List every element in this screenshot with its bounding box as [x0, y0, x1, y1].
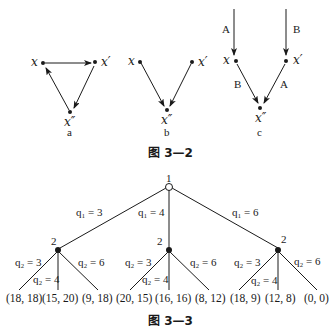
branch-label-q1-4: q₁ = 4 — [138, 206, 165, 218]
label-left-q2-6: q₂ = 6 — [78, 256, 105, 268]
edge-label-A-lower: A — [280, 78, 288, 90]
edge-label-B-top: B — [293, 23, 300, 35]
edge-x-to-xdoubleprime — [141, 63, 164, 106]
payoff-18-9: (18, 9) — [230, 292, 261, 305]
label-x: x — [128, 54, 135, 68]
label-left-q2-3: q₂ = 3 — [15, 256, 42, 268]
label-xprime: x′ — [198, 55, 208, 69]
payoff-0-0: (0, 0) — [304, 292, 329, 305]
figure-3-3-caption: 图 3—3 — [148, 314, 193, 328]
panel-label-c: c — [257, 126, 262, 138]
label-xprime: x′ — [293, 53, 303, 67]
payoff-16-16: (16, 16) — [155, 292, 192, 305]
player2-label-left: 2 — [51, 235, 57, 247]
label-xprime: x′ — [101, 55, 111, 69]
root-node — [166, 184, 173, 191]
label-xdoubleprime: x″ — [161, 113, 173, 127]
edge-xprime-to-xdoubleprime — [170, 64, 191, 106]
payoff-15-20: (15, 20) — [42, 292, 79, 305]
branch-label-q1-6: q₁ = 6 — [232, 206, 259, 218]
edge-q1-6 — [172, 188, 278, 248]
edge-q1-3 — [60, 188, 166, 248]
node-x — [41, 61, 45, 65]
node-xprime — [284, 59, 288, 63]
label-left-q2-4: q₂ = 4 — [33, 273, 60, 285]
figure-3-2-panel-c: A B x x′ B A x″ c — [222, 9, 303, 138]
panel-label-a: a — [67, 126, 72, 138]
edge-label-A-top: A — [222, 23, 230, 35]
payoff-12-8: (12, 8) — [265, 292, 296, 305]
node-xdoubleprime — [165, 108, 169, 112]
figure-canvas: x x′ x″ a x x′ x″ b A B x x′ B A x″ c 图 … — [0, 0, 335, 334]
label-x: x — [223, 53, 230, 67]
node-x — [234, 59, 238, 63]
player2-node-left — [55, 247, 61, 253]
node-xdoubleprime — [258, 106, 262, 110]
label-mid-q2-4: q₂ = 4 — [142, 273, 169, 285]
label-mid-q2-6: q₂ = 6 — [190, 256, 217, 268]
edge-label-B-lower: B — [234, 78, 241, 90]
edge-xprime-to-xdoubleprime — [74, 66, 94, 108]
figure-3-3-game-tree: 1 q₁ = 3 q₁ = 4 q₁ = 6 2 q₂ = 3 q₂ = 4 q… — [6, 172, 329, 305]
node-xprime — [93, 60, 97, 64]
player2-node-right — [275, 247, 281, 253]
label-x: x — [31, 55, 38, 69]
player2-label-middle: 2 — [157, 235, 163, 247]
root-player-label: 1 — [166, 172, 172, 184]
figure-3-2-panel-b: x x′ x″ b — [128, 54, 208, 138]
payoff-9-18: (9, 18) — [82, 292, 113, 305]
label-right-q2-3: q₂ = 3 — [234, 256, 261, 268]
payoff-18-18: (18, 18) — [6, 292, 43, 305]
panel-label-b: b — [164, 126, 170, 138]
edge-xdoubleprime-to-x — [46, 68, 69, 110]
player2-label-right: 2 — [281, 233, 287, 245]
label-right-q2-4: q₂ = 4 — [251, 274, 278, 286]
node-xprime — [190, 60, 194, 64]
payoff-20-15: (20, 15) — [116, 292, 153, 305]
node-x — [138, 60, 142, 64]
label-xdoubleprime: x″ — [255, 111, 267, 125]
figure-3-2-panel-a: x x′ x″ a — [31, 55, 111, 138]
branch-label-q1-3: q₁ = 3 — [76, 206, 103, 218]
figure-3-2-caption: 图 3—2 — [148, 146, 193, 160]
label-right-q2-6: q₂ = 6 — [294, 255, 321, 267]
player2-node-middle — [166, 247, 172, 253]
payoff-8-12: (8, 12) — [195, 292, 226, 305]
node-xdoubleprime — [68, 110, 72, 114]
label-mid-q2-3: q₂ = 3 — [125, 256, 152, 268]
